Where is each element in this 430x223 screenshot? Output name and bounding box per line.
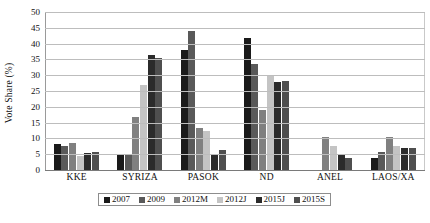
- y-tick-label: 35: [31, 55, 40, 64]
- bar: [211, 155, 218, 170]
- x-tick-label: PASOK: [188, 172, 219, 182]
- bar: [148, 55, 155, 170]
- bar: [140, 85, 147, 170]
- y-tick-label: 50: [31, 8, 40, 17]
- gridline: [45, 28, 425, 29]
- bar: [117, 154, 124, 170]
- legend-item[interactable]: 2012J: [217, 195, 247, 204]
- gridline: [45, 138, 425, 139]
- y-axis-title-text: Vote Share (%): [4, 62, 14, 123]
- y-tick-label: 5: [36, 150, 41, 159]
- bar-chart: Vote Share (%) 50454035302520151050 KKES…: [0, 0, 430, 223]
- plot-area: [45, 12, 425, 170]
- legend-label: 2012J: [225, 195, 247, 204]
- legend-label: 2015J: [264, 195, 286, 204]
- legend-item[interactable]: 2015J: [256, 195, 286, 204]
- y-tick-label: 30: [31, 71, 40, 80]
- bar: [54, 144, 61, 170]
- legend-swatch-icon: [256, 197, 262, 203]
- legend-item[interactable]: 2009: [139, 195, 165, 204]
- legend-label: 2012M: [182, 195, 208, 204]
- y-tick-label: 45: [31, 23, 40, 32]
- gridline: [45, 44, 425, 45]
- x-tick-label: SYRIZA: [122, 172, 158, 182]
- legend-label: 2015S: [302, 195, 325, 204]
- x-tick-label: LAOS/XA: [372, 172, 415, 182]
- bar: [338, 155, 345, 170]
- y-tick-label: 25: [31, 87, 40, 96]
- gridline: [45, 154, 425, 155]
- gridline: [45, 170, 425, 171]
- legend-item[interactable]: 2007: [104, 195, 130, 204]
- bar: [330, 146, 337, 170]
- bar: [371, 158, 378, 170]
- bar: [345, 158, 352, 170]
- gridline: [45, 91, 425, 92]
- bar: [401, 148, 408, 170]
- bar: [196, 128, 203, 170]
- y-tick-label: 20: [31, 102, 40, 111]
- legend-swatch-icon: [217, 197, 223, 203]
- y-tick-label: 15: [31, 118, 40, 127]
- bar: [219, 150, 226, 170]
- legend-label: 2007: [112, 195, 130, 204]
- bar: [125, 155, 132, 170]
- bar: [274, 82, 281, 170]
- x-tick-label: ANEL: [317, 172, 343, 182]
- x-tick-label: KKE: [67, 172, 87, 182]
- bar: [282, 81, 289, 170]
- bar: [69, 143, 76, 170]
- bar: [84, 153, 91, 170]
- bar: [409, 148, 416, 170]
- gridline: [45, 59, 425, 60]
- legend-swatch-icon: [139, 197, 145, 203]
- legend-swatch-icon: [104, 197, 110, 203]
- legend-item[interactable]: 2012M: [174, 195, 208, 204]
- legend-swatch-icon: [174, 197, 180, 203]
- gridline: [45, 75, 425, 76]
- y-tick-label: 0: [36, 166, 41, 175]
- gridline: [45, 123, 425, 124]
- y-axis-ticks: 50454035302520151050: [18, 12, 43, 170]
- bar: [244, 38, 251, 170]
- bar: [181, 50, 188, 170]
- legend-swatch-icon: [294, 197, 300, 203]
- x-axis-labels: KKESYRIZAPASOKNDANELLAOS/XA: [45, 172, 425, 186]
- bar: [188, 31, 195, 170]
- bar: [393, 146, 400, 170]
- gridline: [45, 107, 425, 108]
- bar: [61, 146, 68, 170]
- y-tick-label: 40: [31, 39, 40, 48]
- bar: [203, 131, 210, 170]
- bar: [132, 117, 139, 170]
- y-tick-label: 10: [31, 134, 40, 143]
- chart-legend: 200720092012M2012J2015J2015S: [98, 193, 331, 206]
- bar: [259, 110, 266, 170]
- legend-label: 2009: [147, 195, 165, 204]
- x-tick-label: ND: [260, 172, 274, 182]
- bar: [77, 156, 84, 170]
- y-axis-title: Vote Share (%): [0, 0, 18, 185]
- gridline: [45, 12, 425, 13]
- legend-item[interactable]: 2015S: [294, 195, 325, 204]
